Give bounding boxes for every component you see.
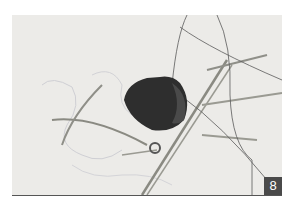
step-number-badge: 8 bbox=[264, 177, 282, 195]
embroidery-photo bbox=[12, 15, 282, 195]
bottom-rule bbox=[12, 195, 282, 196]
photo-illustration bbox=[12, 15, 282, 195]
